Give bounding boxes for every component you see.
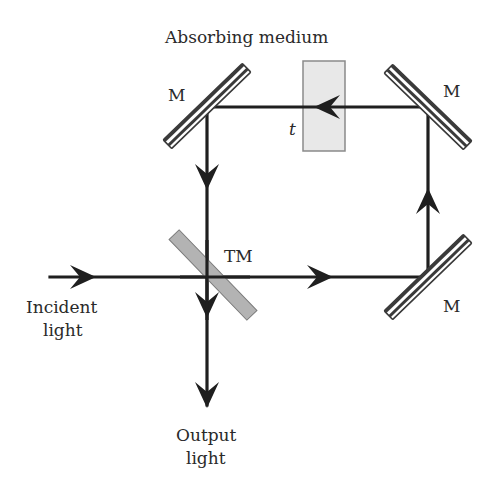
arrowheads — [70, 95, 440, 408]
label-mirror-bottom-right: M — [443, 296, 460, 316]
label-beam-splitter: TM — [224, 246, 253, 266]
label-output-line1: Output — [176, 425, 237, 445]
label-thickness: t — [289, 119, 296, 139]
label-incident-line1: Incident — [26, 297, 98, 317]
label-output-line2: light — [186, 448, 226, 468]
label-incident-line2: light — [43, 320, 83, 340]
title-absorbing-medium: Absorbing medium — [164, 27, 328, 47]
beam-splitter — [169, 230, 257, 320]
ring-interferometer-diagram: Absorbing medium M M M TM t Incident lig… — [0, 0, 502, 486]
label-mirror-top-left: M — [168, 85, 185, 105]
label-mirror-top-right: M — [443, 81, 460, 101]
